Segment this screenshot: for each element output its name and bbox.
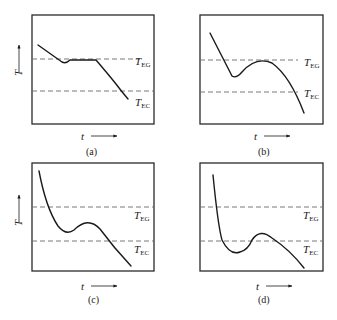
teg-label: TEG: [303, 209, 318, 223]
panel-a: TEG TEC T t (a): [12, 15, 154, 158]
tec-label: TEC: [303, 243, 318, 257]
cooling-curves-figure: TEG TEC T t (a) TEG TEC t (b) TEG TEC T …: [0, 0, 337, 320]
cooling-curve: [39, 171, 131, 266]
panel-caption: (c): [88, 294, 99, 306]
tec-label: TEC: [134, 243, 149, 257]
panel-caption: (b): [258, 146, 270, 158]
cooling-curve: [213, 175, 304, 268]
teg-label: TEG: [304, 56, 319, 70]
teg-label: TEG: [135, 55, 150, 69]
panel-caption: (d): [258, 294, 270, 306]
y-axis-label: T: [12, 219, 24, 226]
panel-b: TEG TEC t (b): [200, 15, 323, 158]
teg-label: TEG: [134, 209, 149, 223]
y-axis-label: T: [12, 69, 24, 76]
x-axis-label: t: [256, 280, 260, 292]
cooling-curve: [210, 33, 304, 113]
x-axis-label: t: [81, 130, 85, 142]
x-axis-label: t: [81, 280, 85, 292]
panel-caption: (a): [86, 146, 97, 158]
tec-label: TEC: [135, 96, 150, 110]
x-axis-label: t: [254, 130, 258, 142]
plot-frame: [200, 15, 323, 124]
tec-label: TEC: [304, 87, 319, 101]
panel-d: TEG TEC t (d): [200, 163, 323, 306]
panel-c: TEG TEC T t (c): [12, 163, 154, 306]
